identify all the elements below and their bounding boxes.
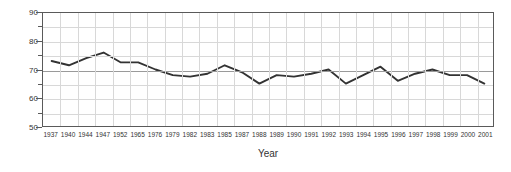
gridline-vertical [460, 13, 461, 126]
x-tick-label: 1965 [130, 130, 144, 140]
x-tick-label: 2001 [478, 130, 492, 140]
x-tick-label: 1991 [304, 130, 318, 140]
x-tick-label: 1947 [96, 130, 110, 140]
gridline-vertical [356, 13, 357, 126]
x-tick-label: 1998 [426, 130, 440, 140]
x-tick-label: 1952 [113, 130, 127, 140]
gridline-vertical [304, 13, 305, 126]
x-tick-label: 1983 [200, 130, 214, 140]
x-tick-label: 1987 [235, 130, 249, 140]
x-axis-tick-labels: 1937194019441947195219651976197919821983… [42, 130, 494, 142]
y-axis-tick-labels: 5060708090 [18, 12, 38, 127]
gridline-vertical [478, 13, 479, 126]
gridline-vertical [391, 13, 392, 126]
x-tick-label: 1937 [43, 130, 57, 140]
gridline-vertical [78, 13, 79, 126]
gridline-vertical [373, 13, 374, 126]
x-tick-label: 1992 [322, 130, 336, 140]
x-tick-label: 1997 [409, 130, 423, 140]
y-tick-label: 70 [18, 65, 38, 74]
x-tick-label: 1996 [391, 130, 405, 140]
gridline-vertical [408, 13, 409, 126]
gridline-vertical [182, 13, 183, 126]
x-tick-label: 1944 [78, 130, 92, 140]
x-tick-label: 2000 [461, 130, 475, 140]
gridline-vertical [339, 13, 340, 126]
x-tick-label: 1988 [252, 130, 266, 140]
plot-area [42, 12, 494, 127]
x-tick-label: 1985 [217, 130, 231, 140]
x-tick-label: 1976 [148, 130, 162, 140]
x-tick-label: 1994 [356, 130, 370, 140]
gridline-vertical [234, 13, 235, 126]
y-tick-label: 50 [18, 123, 38, 132]
x-tick-label: 1990 [287, 130, 301, 140]
gridline-vertical [443, 13, 444, 126]
gridline-vertical [95, 13, 96, 126]
gridline-vertical [425, 13, 426, 126]
x-tick-label: 1999 [443, 130, 457, 140]
x-tick-label: 1995 [374, 130, 388, 140]
y-tick-mark [36, 127, 42, 128]
gridline-vertical [321, 13, 322, 126]
gridline-vertical [147, 13, 148, 126]
gridline-vertical [165, 13, 166, 126]
x-tick-label: 1940 [61, 130, 75, 140]
gridline-vertical [217, 13, 218, 126]
x-axis-title: Year [42, 148, 494, 159]
gridline-vertical [252, 13, 253, 126]
x-tick-label: 1982 [183, 130, 197, 140]
x-tick-label: 1979 [165, 130, 179, 140]
y-tick-label: 60 [18, 94, 38, 103]
gridline-vertical [286, 13, 287, 126]
gridline-vertical [113, 13, 114, 126]
gridline-vertical [269, 13, 270, 126]
gridline-vertical [199, 13, 200, 126]
x-tick-label: 1993 [339, 130, 353, 140]
x-tick-label: 1989 [269, 130, 283, 140]
gridline-vertical [60, 13, 61, 126]
y-tick-label: 80 [18, 36, 38, 45]
y-tick-label: 90 [18, 8, 38, 17]
line-chart: Percent of Population 5060708090 1937194… [0, 0, 511, 172]
gridline-vertical [130, 13, 131, 126]
